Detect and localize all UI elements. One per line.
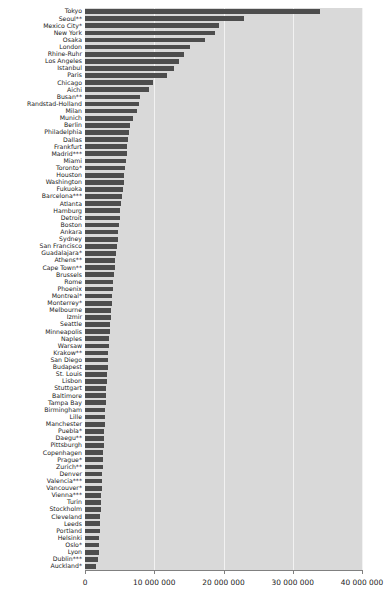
- bar: [85, 479, 102, 484]
- y-axis-label: Prague*: [57, 457, 82, 463]
- bar: [85, 429, 104, 434]
- y-axis-label: Aichi: [67, 87, 82, 93]
- bar: [85, 137, 128, 142]
- bar: [85, 66, 174, 71]
- bar: [85, 557, 98, 562]
- bar: [85, 358, 108, 363]
- bar: [85, 230, 118, 235]
- y-axis-label: Paris: [67, 72, 82, 78]
- bar: [85, 52, 184, 57]
- y-axis-label: Atlanta: [60, 201, 82, 207]
- y-axis-label: Copenhagen: [43, 450, 82, 456]
- bar: [85, 251, 116, 256]
- y-axis-label: Frankfurt: [54, 144, 82, 150]
- y-axis-label: Stockholm: [49, 506, 82, 512]
- bar: [85, 59, 179, 64]
- bar: [85, 16, 244, 21]
- bar: [85, 272, 114, 277]
- bar: [85, 109, 137, 114]
- y-axis-label: Cleveland: [51, 514, 82, 520]
- bar: [85, 173, 124, 178]
- x-axis-tick: [85, 570, 86, 574]
- bar: [85, 365, 108, 370]
- x-axis-tick: [293, 570, 294, 574]
- bar: [85, 208, 120, 213]
- bar: [85, 102, 139, 107]
- y-axis-label: Madrid***: [51, 151, 82, 157]
- bar: [85, 308, 111, 313]
- bar: [85, 45, 190, 50]
- bar: [85, 329, 110, 334]
- bar: [85, 443, 104, 448]
- bar: [85, 486, 102, 491]
- bar: [85, 80, 153, 85]
- bar: [85, 336, 109, 341]
- bar: [85, 422, 105, 427]
- bar: [85, 457, 103, 462]
- y-axis-label: Auckland*: [50, 563, 82, 569]
- y-axis-label: Tokyo: [65, 8, 82, 14]
- y-axis-label: Naples: [61, 336, 82, 342]
- bar: [85, 536, 99, 541]
- plot-area: [85, 8, 362, 570]
- bar: [85, 450, 103, 455]
- bar: [85, 543, 99, 548]
- bar: [85, 180, 124, 185]
- bar: [85, 315, 111, 320]
- bar: [85, 216, 120, 221]
- bar: [85, 144, 127, 149]
- y-axis-label: Philadelphia: [44, 129, 82, 135]
- bar: [85, 351, 108, 356]
- bar: [85, 201, 121, 206]
- bar: [85, 258, 115, 263]
- bar: [85, 372, 107, 377]
- y-axis-label: Zurich**: [56, 464, 82, 470]
- bar: [85, 493, 101, 498]
- bar-series: [85, 8, 362, 570]
- bar: [85, 465, 103, 470]
- bar: [85, 529, 100, 534]
- bar: [85, 95, 140, 100]
- bar: [85, 23, 219, 28]
- y-axis-label: Baltimore: [52, 393, 82, 399]
- x-axis-tick-label: 40 000 000: [341, 578, 383, 587]
- bar: [85, 344, 109, 349]
- x-axis-tick-label: 30 000 000: [272, 578, 314, 587]
- bar: [85, 73, 167, 78]
- bar: [85, 194, 122, 199]
- y-axis-category-labels: TokyoSeoul**Mexico City*New YorkOsakaLon…: [0, 8, 82, 570]
- x-axis-tick: [154, 570, 155, 574]
- bar: [85, 116, 133, 121]
- bar: [85, 166, 125, 171]
- bar: [85, 151, 127, 156]
- y-axis-label: Barcelona***: [42, 193, 82, 199]
- bar-chart: TokyoSeoul**Mexico City*New YorkOsakaLon…: [0, 0, 390, 605]
- x-axis-tick-label: 10 000 000: [133, 578, 175, 587]
- bar: [85, 87, 149, 92]
- bar: [85, 301, 112, 306]
- y-axis-label: Seattle: [60, 321, 82, 327]
- y-axis-label: Brussels: [56, 272, 82, 278]
- y-axis-label: Leeds: [64, 521, 82, 527]
- bar: [85, 159, 126, 164]
- bar: [85, 280, 113, 285]
- x-axis-tick: [224, 570, 225, 574]
- bar: [85, 564, 96, 569]
- bar: [85, 472, 102, 477]
- y-axis-label: Stuttgart: [54, 385, 82, 391]
- bar: [85, 223, 119, 228]
- y-axis-label: Minneapolis: [45, 329, 82, 335]
- bar: [85, 9, 320, 14]
- x-axis-tick: [362, 570, 363, 574]
- bar: [85, 521, 100, 526]
- y-axis-label: Chicago: [57, 80, 82, 86]
- bar: [85, 415, 105, 420]
- bar: [85, 287, 113, 292]
- bar: [85, 38, 205, 43]
- y-axis-label: Tampa Bay: [48, 400, 82, 406]
- x-axis-tick-label: 0: [83, 578, 88, 587]
- y-axis-label: Pittsburgh: [50, 442, 82, 448]
- bar: [85, 393, 106, 398]
- bar: [85, 408, 105, 413]
- bar: [85, 386, 106, 391]
